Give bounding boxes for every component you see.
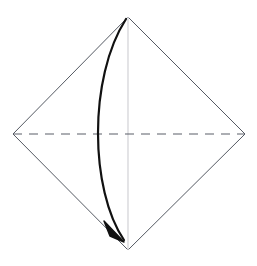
origami-figure (0, 0, 257, 266)
origami-diagram-canvas: Square sheet shown as a diamond with a h… (0, 0, 257, 266)
